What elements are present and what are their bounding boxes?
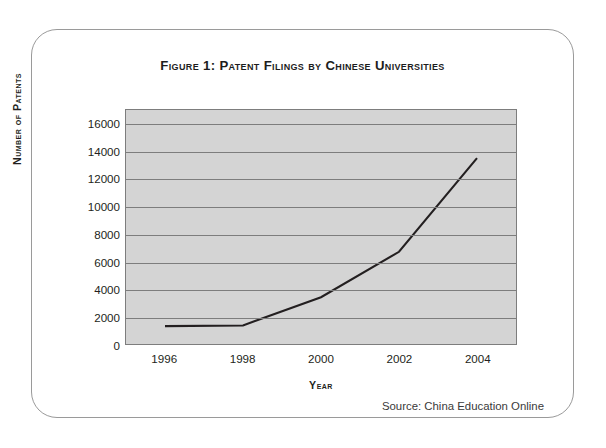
- data-line: [165, 158, 477, 326]
- source-note: Source: China Education Online: [382, 400, 544, 412]
- x-axis-tick-label: 2004: [465, 352, 491, 365]
- y-axis-tick-label: 6000: [64, 255, 120, 268]
- x-axis-tick-labels: 19961998200020022004: [125, 352, 517, 372]
- gridline: [126, 235, 516, 236]
- x-axis-tick-label: 1996: [151, 352, 177, 365]
- figure-page: Figure 1: Patent Filings by Chinese Univ…: [0, 0, 606, 448]
- line-series-svg: [126, 110, 516, 344]
- gridline: [126, 124, 516, 125]
- y-axis-tick-label: 16000: [64, 116, 120, 129]
- gridline: [126, 152, 516, 153]
- y-axis-label: Number of Patents: [11, 73, 23, 165]
- gridline: [126, 290, 516, 291]
- y-axis-tick-label: 2000: [64, 311, 120, 324]
- gridline: [126, 207, 516, 208]
- y-axis-tick-label: 4000: [64, 283, 120, 296]
- page-title: Figure 1: Patent Filings by Chinese Univ…: [32, 58, 573, 73]
- y-axis-tick-label: 0: [64, 339, 120, 352]
- figure-card: Figure 1: Patent Filings by Chinese Univ…: [31, 29, 574, 418]
- x-axis-tick-label: 2000: [308, 352, 334, 365]
- gridline: [126, 179, 516, 180]
- chart-plot-area: [125, 109, 517, 345]
- y-axis-tick-label: 12000: [64, 172, 120, 185]
- x-axis-label: Year: [125, 379, 517, 391]
- y-axis-tick-label: 8000: [64, 227, 120, 240]
- gridline: [126, 263, 516, 264]
- x-axis-tick-label: 1998: [230, 352, 256, 365]
- y-axis-tick-labels: 0200040006000800010000120001400016000: [62, 109, 120, 345]
- gridline: [126, 318, 516, 319]
- y-axis-tick-label: 14000: [64, 144, 120, 157]
- y-axis-tick-label: 10000: [64, 200, 120, 213]
- x-axis-tick-label: 2002: [386, 352, 412, 365]
